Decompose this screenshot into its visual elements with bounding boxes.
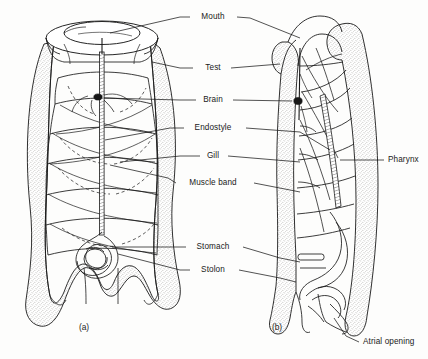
label-mouth: Mouth [201,13,224,21]
endostyle-a [100,38,105,235]
label-test: Test [205,64,220,72]
label-muscle-band: Muscle band [189,179,237,187]
label-pharynx: Pharynx [388,156,419,164]
subfigure-caption-b: (b) [272,322,282,332]
leader-brain-a [104,98,196,100]
leader-mouth-b [237,17,300,38]
subfigure-caption-a: (a) [79,322,89,332]
subfigure-a [26,21,181,326]
label-stomach: Stomach [196,243,229,251]
leader-test-b [231,64,280,68]
label-brain: Brain [203,96,223,104]
subfigure-b [269,16,378,336]
label-atrial-opening: Atrial opening [363,338,414,346]
stomach-a [76,232,118,278]
label-gill: Gill [207,152,219,160]
label-stolon: Stolon [201,266,225,274]
test-wall-b-left [269,42,298,334]
label-endostyle: Endostyle [195,124,232,132]
